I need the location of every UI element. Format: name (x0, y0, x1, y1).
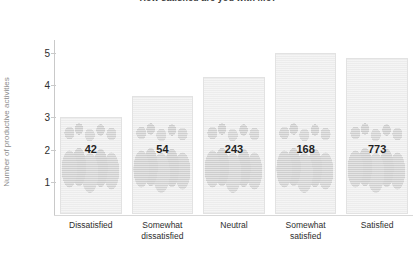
x-axis-category-label-line: satisfied (272, 231, 340, 242)
y-axis-title: Number of productive activities (2, 47, 11, 217)
bar[interactable]: 42 (60, 117, 122, 214)
bar[interactable]: 168 (275, 53, 337, 214)
bar[interactable]: 243 (203, 77, 265, 214)
y-axis-tick-label: 4 (0, 80, 50, 91)
x-axis-category-label-line: Satisfied (343, 220, 411, 231)
bar-slot: 42 (55, 34, 127, 214)
y-axis-tick-label: 2 (0, 144, 50, 155)
y-axis-tick-label: 1 (0, 176, 50, 187)
bar-chart: How satisfied are you with life? Number … (0, 0, 416, 258)
y-axis-tick-mark (51, 53, 56, 54)
x-axis-category-label: Neutral (198, 220, 270, 242)
x-axis-category-label-line: dissatisfied (129, 231, 197, 242)
y-axis-tick-mark (51, 150, 56, 151)
bar-value-label: 773 (347, 143, 407, 155)
y-axis-tick-label: 3 (0, 112, 50, 123)
bar-slot: 168 (270, 34, 342, 214)
bar[interactable]: 773 (346, 58, 408, 214)
plot-area: 4254243168773 12345 (55, 34, 413, 214)
x-axis-category-label: Dissatisfied (55, 220, 127, 242)
bar-group: 4254243168773 (55, 34, 413, 214)
x-axis-category-label-line: Somewhat (129, 220, 197, 231)
bar-value-label: 243 (204, 143, 264, 155)
x-axis-category-label-line: Somewhat (272, 220, 340, 231)
chart-title: How satisfied are you with life? (0, 0, 416, 3)
x-axis-category-label: Somewhatsatisfied (270, 220, 342, 242)
x-axis-category-label: Satisfied (341, 220, 413, 242)
y-axis-tick-mark (51, 117, 56, 118)
bar-slot: 243 (198, 34, 270, 214)
y-axis-tick-label: 5 (0, 47, 50, 58)
bar-slot: 54 (127, 34, 199, 214)
x-axis-baseline (54, 215, 413, 216)
bar[interactable]: 54 (132, 96, 194, 214)
bar-value-label: 42 (61, 143, 121, 155)
bar-value-label: 54 (133, 143, 193, 155)
bar-value-label: 168 (276, 143, 336, 155)
bar-slot: 773 (341, 34, 413, 214)
x-axis-category-label-line: Neutral (200, 220, 268, 231)
y-axis-tick-mark (51, 182, 56, 183)
x-axis-category-label: Somewhatdissatisfied (127, 220, 199, 242)
x-axis-category-labels: DissatisfiedSomewhatdissatisfiedNeutralS… (55, 220, 413, 242)
y-axis-tick-mark (51, 85, 56, 86)
x-axis-category-label-line: Dissatisfied (57, 220, 125, 231)
